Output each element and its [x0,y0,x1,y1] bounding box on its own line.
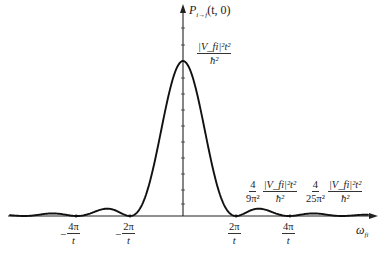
first-sidelobe-label: 4 9π² |V_fi|²t² ħ² [246,179,297,204]
coef-den: 9π² [246,192,260,204]
x-axis-label: ωfi [356,224,368,239]
peak-numerator: |V_fi|²t² [197,41,231,54]
second-sidelobe-label: 4 25π² |V_fi|²t² ħ² [306,179,362,204]
y-axis-arrow-icon [180,4,186,13]
y-axis-args: (t, 0) [207,3,230,17]
y-axis-subscript: i→f [196,11,207,19]
frac-num: |V_fi|²t² [328,179,362,192]
coef-den: 25π² [306,192,325,204]
frac-den: ħ² [276,192,284,204]
y-axis-label: Pi→f(t, 0) [189,4,231,19]
tick-den: t [72,234,75,246]
x-tick-label-4pi: 4π t [282,221,295,246]
peak-denominator: ħ² [210,54,218,66]
tick-num: 2π [228,221,241,234]
tick-den: t [233,234,236,246]
x-axis-subscript: fi [364,231,368,239]
tick-num: 4π [282,221,295,234]
x-tick-label-2pi: 2π t [228,221,241,246]
coef-num: 4 [249,179,256,192]
first-sidelobe-fraction: |V_fi|²t² ħ² [263,179,297,204]
sign: − [60,228,66,240]
diagram-canvas [0,0,382,257]
tick-den: t [127,234,130,246]
tick-fraction: 2π t [122,221,135,246]
tick-num: 4π [67,221,80,234]
sign: − [115,228,121,240]
coef-num: 4 [312,179,319,192]
second-sidelobe-coefficient: 4 25π² [306,179,325,204]
first-sidelobe-coefficient: 4 9π² [246,179,260,204]
tick-den: t [287,234,290,246]
frac-num: |V_fi|²t² [263,179,297,192]
tick-num: 2π [122,221,135,234]
second-sidelobe-fraction: |V_fi|²t² ħ² [328,179,362,204]
frac-den: ħ² [341,192,349,204]
peak-value-label: |V_fi|²t² ħ² [197,41,231,66]
tick-fraction: 4π t [67,221,80,246]
x-tick-label-neg-4pi: − 4π t [60,221,80,246]
x-axis-arrow-icon [369,213,378,219]
x-tick-label-neg-2pi: − 2π t [115,221,135,246]
